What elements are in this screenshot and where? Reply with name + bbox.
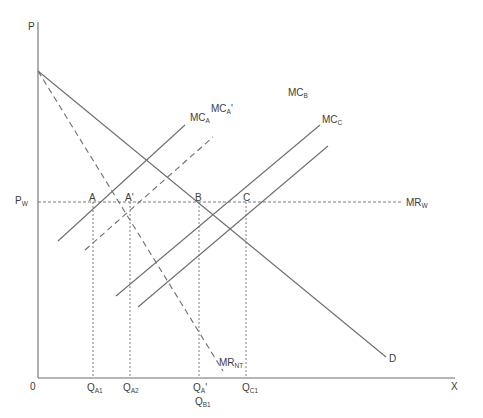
point-a-prime-label: A' — [125, 193, 134, 203]
mc-c-label: MCC — [322, 115, 342, 127]
mc-a-curve — [58, 125, 185, 241]
d-label: D — [389, 354, 396, 364]
x-axis-label: X — [451, 382, 458, 392]
mc-b-curve — [116, 125, 320, 296]
q-b1-label: QB1 — [195, 397, 211, 409]
y-axis-label: P — [28, 22, 35, 32]
pw-label: PW — [15, 196, 28, 208]
mc-c-curve — [138, 146, 328, 307]
q-c1-label: QC1 — [242, 383, 258, 395]
mc-b-label: MCB — [288, 88, 308, 100]
q-a2-label: QA2 — [123, 383, 139, 395]
point-c-label: C — [243, 193, 250, 203]
mr-nt-label: MRNT — [219, 358, 243, 370]
mc-a-label: MCA — [190, 113, 210, 125]
point-a-label: A — [89, 193, 96, 203]
origin-label: 0 — [30, 382, 36, 392]
mrw-label: MRW — [406, 198, 428, 210]
point-b-label: B — [195, 193, 202, 203]
mc-a-prime-label-text: MCA' — [211, 104, 233, 116]
q-a-prime-label: QA' — [193, 383, 207, 395]
mc-a-prime-curve — [85, 137, 213, 250]
q-a1-label: QA1 — [87, 383, 103, 395]
